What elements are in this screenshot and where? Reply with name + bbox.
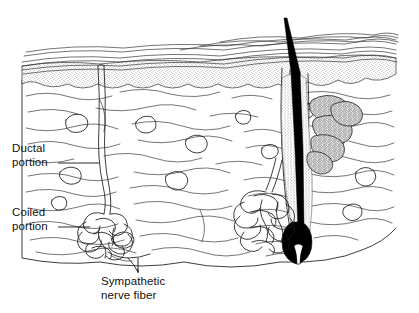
sebaceous-gland bbox=[307, 95, 363, 174]
label-ductal-portion: Ductal portion bbox=[12, 142, 48, 168]
label-coiled-portion: Coiled portion bbox=[12, 206, 48, 232]
label-leader-lines bbox=[58, 163, 138, 273]
label-coiled-line2: portion bbox=[12, 220, 48, 232]
label-ductal-line2: portion bbox=[12, 156, 48, 168]
epidermis bbox=[22, 55, 396, 88]
label-nerve-line1: Sympathetic bbox=[101, 275, 166, 287]
label-ductal-line1: Ductal bbox=[12, 142, 45, 154]
label-coiled-line1: Coiled bbox=[12, 206, 45, 218]
label-sympathetic-nerve-fiber: Sympathetic nerve fiber bbox=[101, 275, 166, 301]
skin-cross-section-figure: Ductal portion Coiled portion Sympatheti… bbox=[0, 0, 419, 313]
label-nerve-line2: nerve fiber bbox=[101, 289, 157, 301]
skin-diagram-svg: Ductal portion Coiled portion Sympatheti… bbox=[0, 0, 419, 313]
sympathetic-nerve-fiber bbox=[108, 252, 150, 272]
eccrine-coil bbox=[77, 213, 132, 260]
